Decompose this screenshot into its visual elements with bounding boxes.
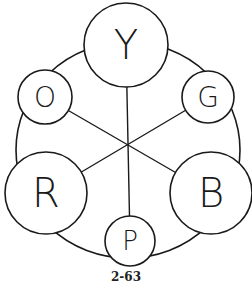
node-label: B xyxy=(198,170,224,216)
node-b: B xyxy=(170,152,252,234)
node-o: O xyxy=(18,70,72,124)
node-y: Y xyxy=(84,3,168,87)
node-label: P xyxy=(122,226,138,256)
color-wheel-diagram: YGBPRO xyxy=(0,0,252,270)
node-g: G xyxy=(182,71,234,123)
node-label: G xyxy=(197,81,219,114)
node-p: P xyxy=(105,216,155,266)
figure-caption: 2-63 xyxy=(0,270,252,284)
node-r: R xyxy=(5,152,87,234)
node-label: R xyxy=(32,170,60,216)
node-label: Y xyxy=(114,22,138,68)
node-label: O xyxy=(34,81,56,114)
